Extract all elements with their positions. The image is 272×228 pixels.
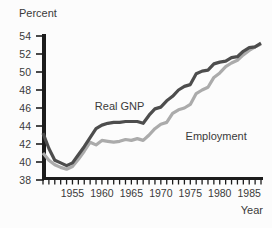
y-tick-label: 40 bbox=[19, 156, 31, 168]
series-label-employment: Employment bbox=[186, 130, 247, 142]
x-tick-label: 1975 bbox=[179, 187, 203, 199]
y-tick-label: 38 bbox=[19, 174, 31, 186]
series-label-real-gnp: Real GNP bbox=[95, 100, 145, 112]
series-line-employment bbox=[43, 44, 261, 169]
x-tick-label: 1980 bbox=[208, 187, 232, 199]
x-tick-label: 1960 bbox=[90, 187, 114, 199]
y-tick-label: 46 bbox=[19, 102, 31, 114]
y-tick-label: 50 bbox=[19, 66, 31, 78]
line-chart: Percent Year 384042444648505254 19551960… bbox=[0, 0, 272, 228]
x-axis-title: Year bbox=[241, 204, 264, 216]
x-axis-ticks: 1955196019651970197519801985 bbox=[43, 179, 261, 199]
x-tick-label: 1970 bbox=[149, 187, 173, 199]
series-labels: Real GNPEmployment bbox=[95, 100, 247, 142]
chart-figure: Percent Year 384042444648505254 19551960… bbox=[0, 0, 272, 228]
x-tick-label: 1955 bbox=[61, 187, 85, 199]
x-tick-label: 1985 bbox=[238, 187, 262, 199]
y-axis-title: Percent bbox=[19, 7, 57, 19]
y-tick-label: 52 bbox=[19, 48, 31, 60]
y-tick-label: 42 bbox=[19, 138, 31, 150]
x-tick-label: 1965 bbox=[120, 187, 144, 199]
series-lines bbox=[43, 43, 261, 169]
y-tick-label: 44 bbox=[19, 120, 31, 132]
y-tick-label: 54 bbox=[19, 30, 31, 42]
y-tick-label: 48 bbox=[19, 84, 31, 96]
series-line-real-gnp bbox=[43, 43, 261, 165]
y-axis-ticks: 384042444648505254 bbox=[19, 30, 44, 186]
